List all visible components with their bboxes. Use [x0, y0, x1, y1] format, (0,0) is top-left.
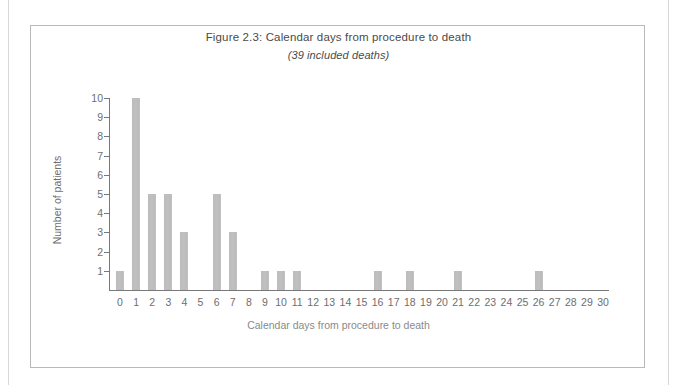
bar — [261, 271, 269, 290]
y-tick-mark — [104, 156, 109, 157]
y-tick-mark — [104, 252, 109, 253]
page-edge-left — [8, 0, 9, 385]
figure-frame: Figure 2.3: Calendar days from procedure… — [30, 25, 645, 368]
bar — [229, 232, 237, 290]
x-axis-title: Calendar days from procedure to death — [31, 319, 646, 331]
bar — [454, 271, 462, 290]
y-tick-mark — [104, 98, 109, 99]
y-tick-mark — [104, 175, 109, 176]
bar — [213, 194, 221, 290]
y-tick-mark — [104, 136, 109, 137]
bar — [148, 194, 156, 290]
y-tick-label: 8 — [83, 131, 103, 142]
bar — [132, 98, 140, 290]
y-tick-mark — [104, 213, 109, 214]
y-tick-label: 7 — [83, 151, 103, 162]
figure-subtitle: (39 included deaths) — [31, 49, 646, 61]
bar — [406, 271, 414, 290]
y-tick-mark — [104, 194, 109, 195]
figure-title: Figure 2.3: Calendar days from procedure… — [31, 31, 646, 43]
bar — [374, 271, 382, 290]
bar — [180, 232, 188, 290]
bar — [293, 271, 301, 290]
y-tick-label: 5 — [83, 189, 103, 200]
y-tick-label: 10 — [83, 93, 103, 104]
bar — [535, 271, 543, 290]
bar — [116, 271, 124, 290]
bar — [277, 271, 285, 290]
y-tick-mark — [104, 271, 109, 272]
y-axis-title: Number of patients — [51, 140, 63, 260]
y-tick-label: 3 — [83, 227, 103, 238]
y-tick-label: 2 — [83, 247, 103, 258]
y-tick-label: 6 — [83, 170, 103, 181]
y-tick-label: 1 — [83, 266, 103, 277]
y-tick-mark — [104, 117, 109, 118]
y-tick-mark — [104, 232, 109, 233]
bar-chart-plot-area: Number of patients 12345678910 012345678… — [109, 98, 609, 290]
x-tick-label: 30 — [593, 296, 613, 308]
page-edge-right — [668, 0, 669, 385]
y-tick-label: 4 — [83, 208, 103, 219]
y-tick-label: 9 — [83, 112, 103, 123]
y-axis-line — [109, 98, 110, 291]
bar — [164, 194, 172, 290]
x-axis-line — [109, 290, 609, 291]
